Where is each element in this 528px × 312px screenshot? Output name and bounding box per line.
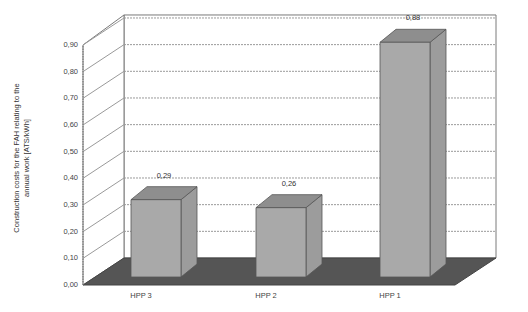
- y-axis-title: Construction costs for the FAH relating …: [12, 48, 32, 268]
- data-label: 0,29: [149, 171, 179, 180]
- bar-front-face: [131, 200, 181, 277]
- y-tick-label: 0,60: [52, 120, 78, 129]
- chart-3d-bar: Construction costs for the FAH relating …: [0, 0, 528, 312]
- y-tick-label: 0,30: [52, 200, 78, 209]
- y-axis-title-line-1: Construction costs for the FAH relating …: [12, 48, 22, 268]
- y-axis-title-line-2: annual work [ATS/kWh]: [22, 48, 32, 268]
- y-tick-label: 0,70: [52, 93, 78, 102]
- bar-hpp-3: [131, 187, 197, 277]
- bar-front-face: [256, 208, 306, 277]
- bar-front-face: [380, 42, 430, 277]
- y-tick-label: 0,90: [52, 40, 78, 49]
- bar-side-face: [306, 195, 322, 277]
- y-tick-label: 0,10: [52, 253, 78, 262]
- y-tick-label: 0,40: [52, 173, 78, 182]
- plot-area: [0, 0, 528, 312]
- y-tick-label: 0,20: [52, 227, 78, 236]
- y-tick-label: 0,80: [52, 67, 78, 76]
- bar-hpp-1: [380, 29, 446, 277]
- y-tick-label: 0,50: [52, 147, 78, 156]
- data-label: 0,26: [274, 179, 304, 188]
- x-axis-label: HPP 3: [121, 291, 161, 300]
- bar-side-face: [430, 29, 446, 277]
- x-axis-label: HPP 1: [370, 291, 410, 300]
- x-axis-label: HPP 2: [246, 291, 286, 300]
- data-label: 0,88: [398, 13, 428, 22]
- bar-side-face: [181, 187, 197, 277]
- bar-hpp-2: [256, 195, 322, 277]
- y-tick-label: 0,00: [52, 280, 78, 289]
